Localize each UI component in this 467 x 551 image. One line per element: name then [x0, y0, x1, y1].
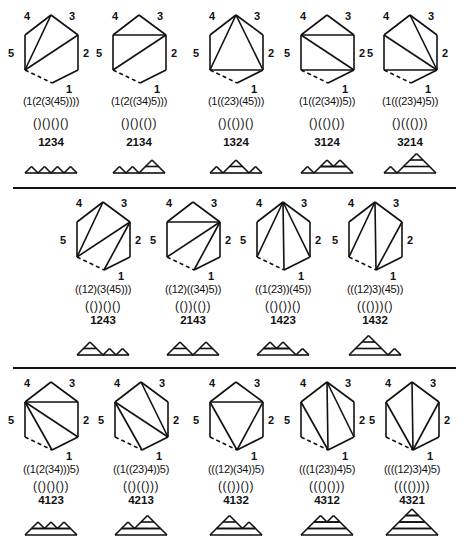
edge-label-1: 1: [390, 271, 396, 282]
edge-label-4: 4: [209, 378, 215, 389]
edge-label-3: 3: [301, 198, 307, 209]
bracketing-label: (((1(23))4)5): [282, 463, 372, 475]
bracketing-label: ((12)((34)5)): [148, 283, 238, 295]
edge-label-5: 5: [193, 415, 199, 426]
edge-label-3: 3: [211, 198, 217, 209]
edge-label-1: 1: [298, 271, 304, 282]
edge-label-3: 3: [254, 11, 260, 22]
edge-label-4: 4: [209, 11, 215, 22]
panel-4123: 12345((1(2(34)))5)(()()())4123: [6, 375, 96, 550]
bracketing-label: (1(2(3(45)))): [6, 95, 96, 107]
dyck-word-label: (())()(): [58, 299, 148, 313]
edge-label-4: 4: [348, 198, 354, 209]
edge-label-4: 4: [114, 378, 120, 389]
dyck-word-label: ()((())): [365, 116, 455, 130]
edge-label-5: 5: [240, 235, 246, 246]
dyck-word-label: (()()()): [6, 479, 96, 493]
bracketing-label: ((1(2(34)))5): [6, 463, 96, 475]
edge-label-3: 3: [393, 198, 399, 209]
mountain-path: [6, 503, 96, 543]
edge-label-2: 2: [173, 415, 179, 426]
edge-label-4: 4: [256, 198, 262, 209]
edge-label-5: 5: [150, 235, 156, 246]
panel-4213: 12345((1((23)4))5)(()(()))4213: [96, 375, 186, 550]
mountain-path: [191, 141, 281, 181]
edge-label-2: 2: [315, 235, 321, 246]
edge-label-2: 2: [225, 235, 231, 246]
edge-label-5: 5: [96, 48, 102, 59]
edge-label-3: 3: [345, 11, 351, 22]
edge-label-5: 5: [367, 48, 373, 59]
panel-1423: 12345((1(23))(45))(()())()1423: [238, 195, 328, 370]
edge-label-4: 4: [383, 11, 389, 22]
edge-label-2: 2: [135, 235, 141, 246]
dyck-word-label: ()(()()): [282, 116, 372, 130]
edge-label-5: 5: [60, 235, 66, 246]
edge-label-3: 3: [157, 11, 163, 22]
edge-label-1: 1: [251, 84, 257, 95]
edge-label-5: 5: [332, 235, 338, 246]
edge-label-1: 1: [427, 451, 433, 462]
dyck-word-label: (())(()): [148, 299, 238, 313]
edge-label-2: 2: [268, 415, 274, 426]
edge-label-2: 2: [268, 48, 274, 59]
edge-label-3: 3: [428, 11, 434, 22]
row-divider-1: [13, 187, 456, 189]
dyck-word-label: (((()))): [367, 479, 457, 493]
bracketing-label: (1((2(34))5)): [282, 95, 372, 107]
mountain-path: [282, 141, 372, 181]
edge-label-3: 3: [345, 378, 351, 389]
edge-label-1: 1: [208, 271, 214, 282]
panel-1234: 12345(1(2(3(45))))()()()()1234: [6, 8, 96, 183]
dyck-word-label: ((()())): [282, 479, 372, 493]
panel-2143: 12345((12)((34)5))(())(())2143: [148, 195, 238, 370]
panel-1324: 12345(1((23)(45)))()(())()1324: [191, 8, 281, 183]
bracketing-label: (((12)(34))5): [191, 463, 281, 475]
mountain-path: [365, 141, 455, 181]
edge-label-4: 4: [300, 11, 306, 22]
mountain-path: [58, 323, 148, 363]
bracketing-label: (1((23)(45))): [191, 95, 281, 107]
dyck-word-label: (()())(): [238, 299, 328, 313]
mountain-path: [6, 141, 96, 181]
mountain-path: [282, 503, 372, 543]
mountain-path: [238, 323, 328, 363]
mountain-path: [96, 503, 186, 543]
edge-label-4: 4: [300, 378, 306, 389]
dyck-word-label: ()(())(): [191, 116, 281, 130]
panel-3214: 12345(1(((23)4)5))()((()))3214: [365, 8, 455, 183]
mountain-path: [94, 141, 184, 181]
edge-label-3: 3: [159, 378, 165, 389]
edge-label-4: 4: [24, 378, 30, 389]
mountain-path: [367, 503, 457, 543]
mountain-path: [191, 503, 281, 543]
panel-1243: 12345((12)(3(45)))(())()()1243: [58, 195, 148, 370]
edge-label-1: 1: [342, 451, 348, 462]
dyck-word-label: ()()(()): [94, 116, 184, 130]
bracketing-label: ((((12)3)4)5): [367, 463, 457, 475]
edge-label-1: 1: [154, 84, 160, 95]
edge-label-1: 1: [118, 271, 124, 282]
edge-label-5: 5: [369, 415, 375, 426]
dyck-word-label: ((()))(): [330, 299, 420, 313]
edge-label-1: 1: [66, 84, 72, 95]
edge-label-2: 2: [83, 48, 89, 59]
edge-label-3: 3: [69, 11, 75, 22]
row-divider-2: [13, 367, 456, 369]
bracketing-label: ((1(23))(45)): [238, 283, 328, 295]
panel-1432: 12345(((12)3)(45))((()))()1432: [330, 195, 420, 370]
dyck-word-label: ()()()(): [6, 116, 96, 130]
panel-4132: 12345(((12)(34))5)((())())4132: [191, 375, 281, 550]
bracketing-label: ((1((23)4))5): [96, 463, 186, 475]
edge-label-5: 5: [8, 415, 14, 426]
catalan-bijection-figure: 12345(1(2(3(45))))()()()()123412345(1(2(…: [0, 0, 467, 551]
mountain-path: [330, 323, 420, 363]
edge-label-4: 4: [166, 198, 172, 209]
edge-label-4: 4: [24, 11, 30, 22]
edge-label-2: 2: [407, 235, 413, 246]
edge-label-1: 1: [156, 451, 162, 462]
edge-label-1: 1: [425, 84, 431, 95]
edge-label-1: 1: [342, 84, 348, 95]
edge-label-2: 2: [171, 48, 177, 59]
bracketing-label: (1(((23)4)5)): [365, 95, 455, 107]
